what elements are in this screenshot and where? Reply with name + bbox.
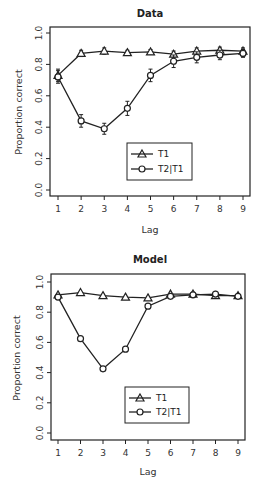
y-tick-label: 0.4 [35, 365, 45, 380]
legend: T1 T2|T1 [125, 387, 189, 423]
circle-marker-icon [124, 105, 130, 111]
legend-label-t2t1: T2|T1 [157, 164, 183, 174]
series-t2-given-t1 [55, 49, 246, 134]
circle-marker-icon [100, 366, 106, 372]
x-tick-label: 5 [148, 204, 154, 214]
circle-marker-icon [123, 346, 129, 352]
x-tick-label: 8 [213, 448, 219, 458]
x-tick-label: 4 [125, 204, 131, 214]
circle-marker-icon [139, 166, 145, 172]
legend-label-t1: T1 [157, 149, 169, 159]
circle-marker-icon [194, 54, 200, 60]
y-tick-label: 0.0 [34, 183, 44, 198]
legend-label-t2t1: T2|T1 [155, 407, 181, 417]
circle-marker-icon [240, 50, 246, 56]
triangle-marker-icon [77, 289, 85, 296]
x-tick-label: 4 [123, 448, 129, 458]
x-tick-label: 3 [101, 204, 107, 214]
series-t2-given-t1 [55, 291, 241, 372]
circle-marker-icon [148, 72, 154, 78]
circle-marker-icon [213, 291, 219, 297]
circle-marker-icon [190, 292, 196, 298]
y-axis: 0.00.20.40.60.81.0 [34, 26, 50, 198]
y-axis-label: Proportion correct [11, 315, 22, 401]
x-axis: 123456789 [55, 440, 241, 458]
x-axis-label: Lag [141, 224, 158, 235]
y-tick-label: 0.8 [35, 305, 45, 320]
y-tick-label: 0.6 [35, 335, 45, 350]
x-tick-label: 6 [168, 448, 174, 458]
x-tick-label: 7 [194, 204, 200, 214]
y-axis-label: Proportion correct [13, 69, 24, 155]
circle-marker-icon [137, 409, 143, 415]
model-chart: Model 0.00.20.40.60.81.0 123456789 Lag P… [0, 248, 264, 495]
model-chart-panel: Model 0.00.20.40.60.81.0 123456789 Lag P… [0, 248, 264, 495]
y-tick-label: 0.8 [34, 57, 44, 72]
x-tick-label: 2 [78, 448, 84, 458]
x-tick-label: 9 [235, 448, 241, 458]
circle-marker-icon [55, 74, 61, 80]
y-tick-label: 0.4 [34, 120, 44, 135]
x-tick-label: 9 [240, 204, 246, 214]
circle-marker-icon [217, 52, 223, 58]
x-tick-label: 2 [78, 204, 84, 214]
x-tick-label: 8 [217, 204, 223, 214]
y-tick-label: 1.0 [35, 275, 45, 290]
series-layer [54, 46, 247, 134]
circle-marker-icon [78, 118, 84, 124]
circle-marker-icon [78, 336, 84, 342]
x-axis-label: Lag [139, 466, 156, 477]
triangle-marker-icon [100, 47, 108, 54]
data-chart: Data 0.00.20.40.60.81.0 123456789 Lag Pr… [0, 0, 264, 248]
circle-marker-icon [145, 303, 151, 309]
x-tick-label: 7 [190, 448, 196, 458]
circle-marker-icon [101, 126, 107, 132]
y-tick-label: 1.0 [34, 26, 44, 41]
circle-marker-icon [168, 293, 174, 299]
circle-marker-icon [171, 58, 177, 64]
circle-marker-icon [235, 293, 241, 299]
legend-label-t1: T1 [155, 393, 167, 403]
circle-marker-icon [55, 294, 61, 300]
x-axis: 123456789 [55, 196, 246, 214]
y-axis: 0.00.20.40.60.81.0 [35, 275, 51, 441]
x-tick-label: 1 [55, 204, 61, 214]
y-tick-label: 0.6 [34, 88, 44, 103]
x-tick-label: 5 [145, 448, 151, 458]
x-tick-label: 1 [55, 448, 61, 458]
x-tick-label: 6 [171, 204, 177, 214]
chart-title: Data [137, 8, 164, 19]
data-chart-panel: Data 0.00.20.40.60.81.0 123456789 Lag Pr… [0, 0, 264, 248]
y-tick-label: 0.0 [35, 426, 45, 441]
y-tick-label: 0.2 [35, 396, 45, 410]
x-tick-label: 3 [100, 448, 106, 458]
series-layer [54, 289, 242, 372]
y-tick-label: 0.2 [34, 151, 44, 165]
chart-title: Model [133, 254, 167, 265]
legend: T1 T2|T1 [127, 143, 192, 180]
